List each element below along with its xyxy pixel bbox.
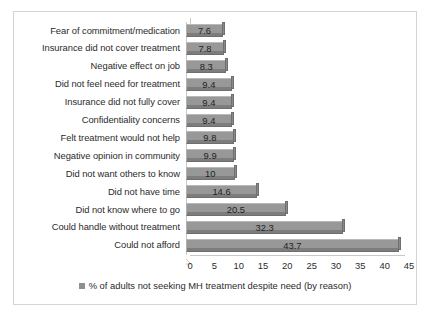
bar-value-label: 9.4: [186, 96, 232, 109]
category-label: Could not afford: [114, 239, 180, 251]
chart-plot-wrapper: Fear of commitment/medicationInsurance d…: [14, 12, 416, 304]
category-label: Negative opinion in community: [54, 150, 180, 162]
bar: 9.4: [186, 114, 232, 127]
bar-value-label: 43.7: [186, 239, 399, 252]
bar: 7.6: [186, 24, 223, 37]
category-label: Did not know where to go: [75, 204, 180, 216]
category-label: Did not have time: [108, 186, 180, 198]
bar-value-label: 7.6: [186, 24, 223, 37]
bar-value-label: 10: [186, 167, 235, 180]
category-label: Felt treatment would not help: [61, 132, 180, 144]
bar: 14.6: [186, 185, 257, 198]
bar-value-label: 20.5: [186, 203, 286, 216]
bar: 7.8: [186, 42, 224, 55]
category-label: Fear of commitment/medication: [50, 25, 180, 37]
bar: 8.3: [186, 60, 226, 73]
bar: 9.8: [186, 131, 234, 144]
bar-value-label: 8.3: [186, 60, 226, 73]
bar: 9.4: [186, 78, 232, 91]
bar-value-label: 9.9: [186, 149, 234, 162]
category-label: Could handle without treatment: [52, 221, 180, 233]
x-axis-line: [190, 255, 405, 256]
bar-value-label: 14.6: [186, 185, 257, 198]
bar: 43.7: [186, 239, 399, 252]
bar-value-label: 9.4: [186, 78, 232, 91]
chart-frame: Fear of commitment/medicationInsurance d…: [13, 11, 417, 305]
bar: 9.9: [186, 149, 234, 162]
category-axis-labels: Fear of commitment/medicationInsurance d…: [14, 12, 180, 304]
category-label: Did not feel need for treatment: [55, 78, 180, 90]
category-label: Insurance did not fully cover: [65, 96, 180, 108]
legend-label: % of adults not seeking MH treatment des…: [89, 280, 352, 291]
bar-value-label: 9.8: [186, 131, 234, 144]
category-label: Confidentiality concerns: [82, 114, 180, 126]
category-label: Did not want others to know: [66, 168, 180, 180]
bars-container: 7.67.88.39.49.49.49.89.91014.620.532.343…: [186, 22, 405, 255]
bar: 20.5: [186, 203, 286, 216]
bar-value-label: 32.3: [186, 221, 343, 234]
bar: 10: [186, 167, 235, 180]
bar: 9.4: [186, 96, 232, 109]
bar: 32.3: [186, 221, 343, 234]
category-label: Negative effect on job: [91, 60, 180, 72]
category-label: Insurance did not cover treatment: [42, 42, 180, 54]
chart-legend: % of adults not seeking MH treatment des…: [14, 280, 416, 291]
bar-value-label: 9.4: [186, 114, 232, 127]
bar-value-label: 7.8: [186, 42, 224, 55]
x-axis-tick-labels: 051015202530354045: [186, 259, 410, 273]
legend-swatch-icon: [79, 283, 85, 289]
x-tick-label: 45: [394, 259, 424, 272]
